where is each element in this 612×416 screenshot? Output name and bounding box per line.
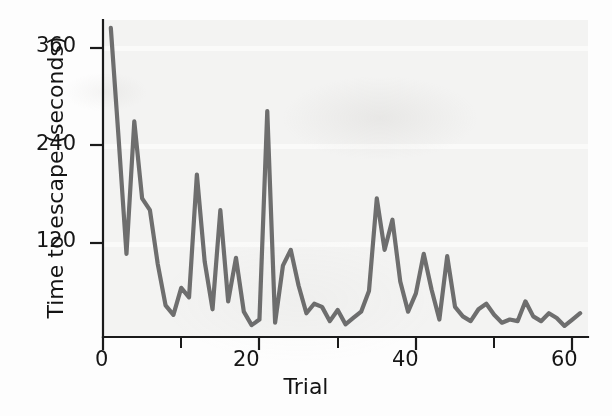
x-axis-label: Trial (0, 374, 612, 399)
x-tick-label-60: 60 (551, 347, 578, 371)
scan-band (103, 46, 588, 51)
x-tick-label-20: 20 (233, 347, 260, 371)
line-chart-plot (0, 0, 612, 416)
scan-band (103, 144, 588, 149)
x-tick-label-0: 0 (95, 347, 108, 371)
plot-background (103, 20, 588, 337)
scan-band (103, 242, 588, 247)
y-axis-label: Time to escape (seconds) (43, 28, 68, 328)
x-tick-label-40: 40 (392, 347, 419, 371)
figure-container: 360 240 120 0 20 40 60 Time to escape (s… (0, 0, 612, 416)
